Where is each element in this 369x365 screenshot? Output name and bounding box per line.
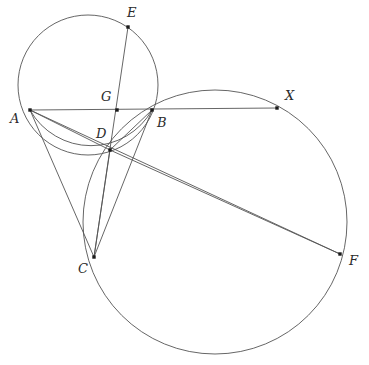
segment-d-c	[94, 150, 110, 257]
point-d	[108, 148, 111, 151]
point-label-g: G	[101, 90, 111, 103]
point-label-x: X	[285, 89, 294, 102]
segment-b-d	[110, 110, 152, 150]
geometry-canvas	[0, 0, 369, 365]
point-c	[92, 255, 95, 258]
circles-layer	[18, 15, 347, 354]
segments-layer	[30, 27, 340, 257]
point-label-d: D	[96, 127, 106, 140]
large-circle	[83, 90, 347, 354]
point-g	[115, 108, 118, 111]
point-f	[338, 252, 341, 255]
point-a	[28, 108, 31, 111]
segment-a-f	[30, 110, 340, 254]
small-circle	[18, 15, 158, 155]
point-label-f: F	[349, 254, 358, 267]
point-label-c: C	[78, 262, 88, 275]
points-layer	[28, 25, 341, 258]
point-b	[150, 108, 153, 111]
point-x	[275, 106, 278, 109]
geometry-figure: ABCDEFGX	[0, 0, 369, 365]
point-label-e: E	[127, 6, 137, 19]
point-e	[126, 25, 129, 28]
segment-a-c	[30, 110, 94, 257]
point-label-b: B	[157, 116, 167, 129]
point-label-a: A	[10, 112, 19, 125]
segment-d-f	[110, 150, 340, 254]
